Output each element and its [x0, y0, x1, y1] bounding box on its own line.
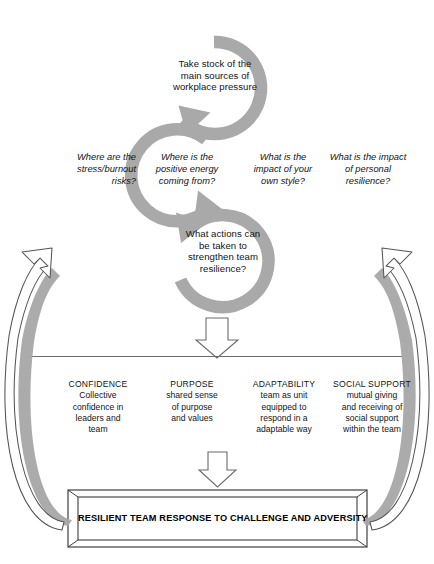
cycle-step-2-text: What actions can be taken to strengthen …	[165, 228, 281, 275]
down-arrow-to-result	[199, 452, 236, 487]
pillar-purpose-heading: PURPOSE	[146, 379, 238, 390]
pillar-purpose: PURPOSE shared sense of purpose and valu…	[146, 379, 238, 424]
pillar-adaptability-heading: ADAPTABILITY	[236, 379, 332, 390]
pillar-social-support-heading: SOCIAL SUPPORT	[320, 379, 424, 390]
pillar-confidence: CONFIDENCE Collective confidence in lead…	[52, 379, 144, 436]
pillar-confidence-body: Collective confidence in leaders and tea…	[52, 390, 144, 435]
diagram-canvas: Take stock of the main sources of workpl…	[0, 0, 434, 564]
pillar-adaptability-body: team as unit equipped to respond in a ad…	[236, 390, 332, 435]
cycle-question-4: What is the impact of personal resilienc…	[318, 152, 418, 188]
cycle-question-2: Where is the positive energy coming from…	[140, 152, 234, 188]
cycle-question-1: Where are the stress/burnout risks?	[44, 152, 136, 188]
cycle-question-3: What is the impact of your own style?	[240, 152, 326, 188]
result-box-label: RESILIENT TEAM RESPONSE TO CHALLENGE AND…	[78, 513, 357, 523]
pillar-purpose-body: shared sense of purpose and values	[146, 390, 238, 424]
pillar-confidence-heading: CONFIDENCE	[52, 379, 144, 390]
down-arrow-to-pillars	[196, 318, 238, 358]
pillar-social-support: SOCIAL SUPPORT mutual giving and receivi…	[320, 379, 424, 436]
cycle-step-1-text: Take stock of the main sources of workpl…	[157, 58, 273, 93]
pillar-adaptability: ADAPTABILITY team as unit equipped to re…	[236, 379, 332, 436]
pillar-social-support-body: mutual giving and receiving of social su…	[320, 390, 424, 435]
